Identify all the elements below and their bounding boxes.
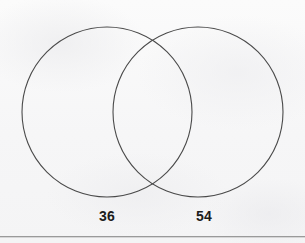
venn-diagram-figure: 36 54 <box>0 0 305 243</box>
right-set-circle-icon <box>113 27 283 197</box>
left-set-circle-icon <box>22 27 192 197</box>
left-set-label: 36 <box>99 209 115 223</box>
bottom-divider-shadow <box>0 237 305 238</box>
right-set-label: 54 <box>196 209 212 223</box>
venn-diagram-canvas <box>0 0 305 243</box>
